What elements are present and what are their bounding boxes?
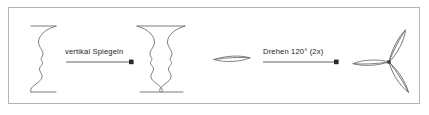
transformation-figure: vertikal Spiegeln Drehen 120° (2x)	[0, 0, 429, 115]
label-vertikal-spiegeln: vertikal Spiegeln	[65, 47, 123, 56]
rotor-hub	[387, 60, 390, 63]
label-drehen-120: Drehen 120° (2x)	[263, 47, 323, 56]
figure-canvas	[0, 0, 429, 115]
